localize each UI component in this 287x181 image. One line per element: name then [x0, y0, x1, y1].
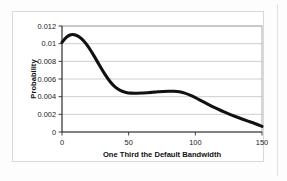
y-axis-title: Probability: [29, 59, 38, 99]
y-tick-label: 0.004: [38, 92, 57, 101]
y-tick-label: 0.012: [38, 22, 57, 31]
figure-container: 0.012 0.01 0.008 0.006 0.004 0.002 0 0 5…: [0, 0, 287, 181]
y-tick-labels: 0.012 0.01 0.008 0.006 0.004 0.002 0: [38, 22, 57, 137]
chart-svg: 0.012 0.01 0.008 0.006 0.004 0.002 0 0 5…: [0, 0, 287, 181]
x-tick-marks: [62, 132, 262, 136]
x-tick-labels: 0 50 100 150: [60, 138, 268, 147]
y-tick-label: 0.002: [38, 110, 57, 119]
chart: 0.012 0.01 0.008 0.006 0.004 0.002 0 0 5…: [0, 0, 287, 181]
y-tick-label: 0.008: [38, 57, 57, 66]
x-axis-title: One Third the Default Bandwidth: [103, 150, 221, 159]
y-tick-label: 0.01: [42, 39, 56, 48]
x-tick-label: 50: [125, 138, 133, 147]
x-tick-label: 150: [256, 138, 268, 147]
y-tick-label: 0: [52, 128, 56, 137]
x-tick-label: 0: [60, 138, 64, 147]
x-tick-label: 100: [189, 138, 201, 147]
y-tick-label: 0.006: [38, 75, 57, 84]
